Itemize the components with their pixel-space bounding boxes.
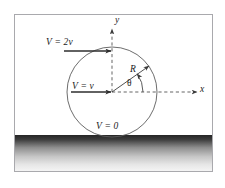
potential-label-bottom: V = 0 xyxy=(96,122,119,132)
diagram-graphics xyxy=(0,0,225,188)
angle-arc xyxy=(137,74,143,92)
potential-label-top: V = 2v xyxy=(46,38,73,48)
figure-canvas: V = 2v V = v V = 0 R θ y x xyxy=(0,0,225,188)
radius-label: R xyxy=(130,65,136,75)
x-axis-label: x xyxy=(200,85,204,95)
angle-label: θ xyxy=(127,79,132,89)
y-axis-label: y xyxy=(115,16,119,26)
ground-plane xyxy=(15,135,212,171)
potential-label-center: V = v xyxy=(72,82,94,92)
